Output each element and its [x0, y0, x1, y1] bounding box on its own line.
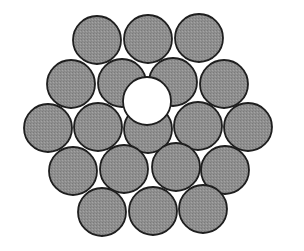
strand-circle	[152, 143, 200, 191]
strand-circle	[78, 188, 126, 236]
strand-circle	[124, 15, 172, 63]
strand-circle	[129, 187, 177, 235]
strand-circle	[74, 103, 122, 151]
strand-circle	[175, 14, 223, 62]
strand-circle	[73, 16, 121, 64]
strand-circle	[24, 104, 72, 152]
hollow-core-group	[123, 77, 171, 125]
strand-circle	[100, 145, 148, 193]
strand-circle	[179, 185, 227, 233]
strand-circle	[47, 60, 95, 108]
strand-circle	[200, 60, 248, 108]
strand-circle	[49, 147, 97, 195]
diagram-canvas	[0, 0, 304, 251]
hollow-core-circle	[123, 77, 171, 125]
strand-circle	[224, 103, 272, 151]
